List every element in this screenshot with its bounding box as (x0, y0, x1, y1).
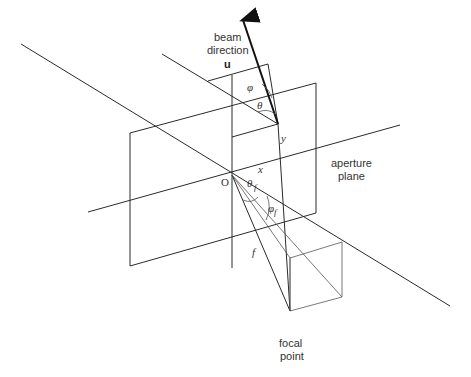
beam-vector-label: u (224, 58, 231, 70)
y-label: y (280, 132, 286, 144)
theta-f-ray (232, 175, 290, 258)
upper-diagonal-line (162, 54, 278, 124)
theta-f-subscript: f (254, 182, 258, 192)
x-label: x (257, 163, 263, 175)
focal-label-line1: focal (279, 337, 302, 349)
upper-offset-line-2 (232, 124, 278, 137)
theta-f-ray-2 (232, 175, 342, 297)
aperture-label-line1: aperture (331, 157, 372, 169)
origin-label: O (221, 176, 229, 188)
phi-label: φ (247, 81, 253, 93)
y-projection-line (278, 124, 290, 311)
theta-label: θ (257, 99, 263, 111)
focal-length-label: f (252, 246, 257, 258)
focal-box-front (290, 242, 342, 311)
beam-geometry-diagram: beam direction u φ θ y x aperture plane … (0, 0, 471, 377)
theta-f-label: θ (247, 177, 253, 189)
focal-label-line2: point (280, 350, 304, 362)
beam-label-line1: beam (214, 31, 242, 43)
diagonal-axis (21, 44, 450, 306)
beam-label-line2: direction (207, 44, 249, 56)
focal-length-line (232, 175, 290, 311)
phi-f-subscript: f (274, 207, 278, 217)
aperture-label-line2: plane (338, 170, 365, 182)
